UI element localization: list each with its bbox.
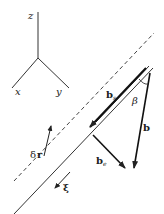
xi-label: ξ	[63, 182, 69, 193]
delta-r-r: r	[37, 149, 43, 160]
b-vector	[134, 73, 150, 168]
dislocation-line	[14, 68, 153, 214]
y-axis	[38, 58, 69, 88]
x-axis	[12, 58, 38, 88]
b-label: b	[143, 122, 150, 133]
dislocation-diagram: z x y b s β b b e δ r ξ	[0, 0, 164, 214]
y-axis-label: y	[55, 86, 62, 97]
b-s-label: b s	[106, 89, 116, 101]
svg-text:b: b	[106, 89, 113, 100]
delta-r-label: δ r	[30, 149, 43, 160]
x-axis-label: x	[15, 86, 21, 97]
svg-text:b: b	[96, 155, 103, 166]
beta-label: β	[131, 95, 138, 106]
svg-text:δ: δ	[30, 149, 36, 160]
b-e-label: b e	[96, 155, 107, 167]
z-axis-label: z	[27, 10, 34, 21]
coordinate-axes: z x y	[12, 10, 69, 97]
b-e-subscript: e	[103, 160, 107, 167]
b-s-subscript: s	[113, 94, 116, 101]
delta-r-vector	[44, 126, 51, 156]
